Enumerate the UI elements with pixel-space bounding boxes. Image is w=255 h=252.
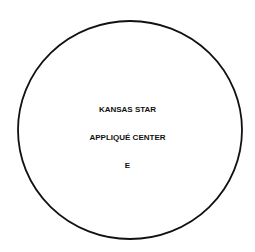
pattern-piece-letter: E (0, 161, 255, 170)
circle-template (0, 0, 255, 252)
pattern-subtitle: APPLIQUÉ CENTER (0, 133, 255, 142)
pattern-title: KANSAS STAR (0, 105, 255, 114)
